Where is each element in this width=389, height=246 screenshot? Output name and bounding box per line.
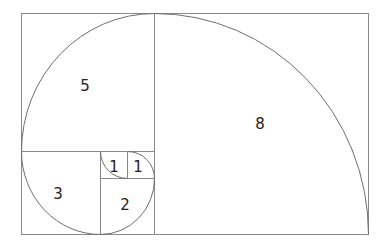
- label-1a: 1: [109, 158, 119, 176]
- label-2: 2: [120, 196, 130, 214]
- label-1b: 1: [133, 158, 143, 176]
- label-8: 8: [255, 115, 265, 133]
- label-5: 5: [80, 77, 90, 95]
- fibonacci-spiral-diagram: 8 5 3 2 1 1: [0, 0, 389, 246]
- spiral-curve: [22, 14, 369, 235]
- label-3: 3: [53, 185, 63, 203]
